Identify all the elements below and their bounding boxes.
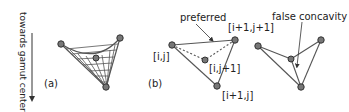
point-label-i1j1: [i+1,j+1]	[228, 22, 274, 33]
panel-a-label: (a)	[44, 78, 58, 89]
panel-a-mesh	[61, 38, 120, 87]
axis-label: towards gamut center	[18, 12, 28, 112]
point-label-ij: [i,j]	[153, 51, 170, 62]
gamut-direction-indicator: towards gamut center	[18, 12, 32, 112]
panel-b-label: (b)	[148, 78, 162, 89]
panel-c-concavity-pointer	[297, 22, 302, 66]
preferred-annotation: preferred	[180, 12, 226, 23]
panel-c-edges	[258, 40, 321, 87]
point-label-ij1: [i,j+1]	[209, 63, 240, 74]
panel-b-preferred-pointer	[196, 24, 212, 40]
false-concavity-annotation: false concavity	[272, 11, 347, 22]
figure-canvas: towards gamut center (a)	[0, 0, 349, 112]
point-label-i1j: [i+1,j]	[222, 90, 253, 101]
